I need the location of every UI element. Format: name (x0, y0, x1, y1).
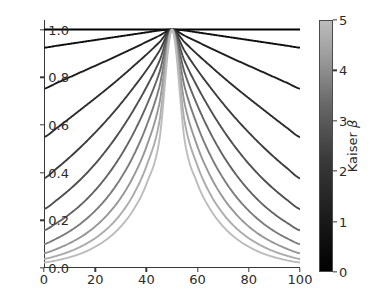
kaiser-curve (44, 30, 300, 254)
colorbar-label: Kaiser β (345, 120, 360, 172)
colorbar-tick-label: 5 (339, 13, 347, 28)
colorbar-tick-mark (333, 70, 337, 71)
colorbar-label-symbol: β (345, 120, 360, 128)
y-tick-label: 1.0 (37, 22, 69, 37)
colorbar-tick-mark (333, 221, 337, 222)
colorbar-tick-mark (333, 120, 337, 121)
kaiser-curve (44, 30, 300, 179)
x-tick-label: 60 (189, 272, 206, 287)
y-tick-label: 0.6 (37, 117, 69, 132)
matplotlib-figure: 0.00.20.40.60.81.0 020406080100 012345 K… (0, 0, 375, 297)
kaiser-curve (44, 30, 300, 210)
kaiser-curve (44, 30, 300, 138)
x-tick-label: 100 (288, 272, 313, 287)
y-tick-label: 0.4 (37, 165, 69, 180)
kaiser-curve (44, 30, 300, 245)
kaiser-curve (44, 30, 300, 89)
y-tick-label: 0.8 (37, 70, 69, 85)
colorbar-label-text: Kaiser (345, 128, 360, 172)
x-tick-label: 80 (241, 272, 258, 287)
colorbar-tick-label: 1 (339, 214, 347, 229)
kaiser-curve (44, 30, 300, 48)
y-tick-label: 0.2 (37, 213, 69, 228)
colorbar-tick-label: 4 (339, 63, 347, 78)
colorbar-gradient (319, 20, 333, 272)
plot-axes (44, 20, 300, 268)
x-tick-label: 20 (87, 272, 104, 287)
kaiser-curve (44, 30, 300, 231)
x-tick-label: 40 (138, 272, 155, 287)
figure-title-faint (0, 0, 375, 12)
kaiser-window-curves (44, 20, 300, 268)
x-tick-label: 0 (40, 272, 48, 287)
colorbar-tick-mark (333, 271, 337, 272)
colorbar (319, 20, 333, 272)
colorbar-tick-mark (333, 19, 337, 20)
colorbar-tick-label: 0 (339, 265, 347, 280)
colorbar-tick-mark (333, 171, 337, 172)
